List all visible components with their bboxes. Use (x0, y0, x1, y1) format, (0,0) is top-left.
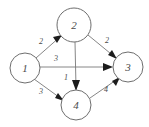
edge-1-to-3-arrowhead (103, 63, 113, 71)
node-group: 1 2 3 4 (10, 8, 143, 120)
node-4[interactable]: 4 (61, 90, 91, 120)
edge-weight-4-to-3: 4 (104, 85, 108, 94)
node-2-label: 2 (71, 19, 77, 31)
node-1[interactable]: 1 (10, 53, 40, 83)
edge-label-group: 2 2 3 1 3 4 (38, 36, 109, 96)
edge-1-to-3[interactable] (40, 63, 113, 71)
graph-figure: 1 2 3 4 2 2 3 1 3 4 (0, 0, 149, 127)
edge-weight-1-to-3: 3 (53, 54, 58, 63)
edge-weight-2-to-3: 2 (105, 36, 109, 45)
node-4-label: 4 (73, 99, 79, 111)
edge-weight-1-to-4: 3 (38, 87, 43, 96)
edge-2-to-4[interactable] (72, 42, 80, 91)
node-3-label: 3 (124, 61, 131, 73)
edge-2-to-3[interactable] (88, 35, 117, 59)
edge-2-to-4-arrowhead (72, 80, 80, 91)
node-3[interactable]: 3 (113, 52, 143, 82)
graph-canvas: 1 2 3 4 2 2 3 1 3 4 (0, 0, 149, 127)
node-2[interactable]: 2 (57, 8, 91, 42)
edge-weight-2-to-4: 1 (64, 73, 68, 82)
edge-weight-1-to-2: 2 (39, 37, 43, 46)
node-1-label: 1 (22, 62, 28, 74)
